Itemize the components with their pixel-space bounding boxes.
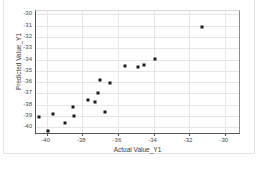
x-axis-tickmark — [225, 133, 226, 136]
data-point — [37, 116, 40, 119]
scatter-chart-card: -30-31-32-33-34-35-36-37-38-39-40 -40-38… — [3, 0, 255, 154]
x-axis-tickmark — [47, 133, 48, 136]
x-axis-tick-label: -30 — [219, 137, 228, 143]
x-axis-title: Actual Value_Y1 — [35, 146, 240, 153]
plot-area — [35, 10, 240, 134]
x-axis-tick-label: -32 — [184, 137, 193, 143]
y-axis-tick-label: -40 — [23, 123, 32, 129]
data-point — [108, 82, 111, 85]
data-point — [200, 26, 203, 29]
y-axis-tick-label: -30 — [23, 10, 32, 16]
data-point — [124, 64, 127, 67]
y-axis-tick-label: -34 — [23, 56, 32, 62]
x-axis-tick-label: -38 — [77, 137, 86, 143]
y-axis-title: Predicted Value_Y1 — [15, 12, 22, 112]
x-axis-tick-label: -36 — [113, 137, 122, 143]
data-point — [99, 78, 102, 81]
data-points-layer — [36, 11, 239, 133]
y-axis-tick-label: -37 — [23, 89, 32, 95]
y-axis-tick-label: -39 — [23, 112, 32, 118]
x-axis-tickmark — [82, 133, 83, 136]
x-axis-tick-label: -34 — [148, 137, 157, 143]
data-point — [97, 92, 100, 95]
y-axis-tick-label: -32 — [23, 33, 32, 39]
y-axis-tick-label: -31 — [23, 22, 32, 28]
x-axis-tickmark — [118, 133, 119, 136]
y-axis-tick-label: -38 — [23, 101, 32, 107]
x-axis-tick-label: -40 — [41, 137, 50, 143]
x-axis-tickmark — [154, 133, 155, 136]
data-point — [154, 58, 157, 61]
data-point — [73, 115, 76, 118]
data-point — [142, 63, 145, 66]
data-point — [103, 110, 106, 113]
data-point — [64, 121, 67, 124]
x-axis-tickmark — [189, 133, 190, 136]
data-point — [46, 129, 49, 132]
data-point — [137, 66, 140, 69]
data-point — [93, 100, 96, 103]
data-point — [86, 98, 89, 101]
y-axis-tick-label: -35 — [23, 67, 32, 73]
data-point — [51, 112, 54, 115]
y-axis-tick-label: -33 — [23, 44, 32, 50]
data-point — [71, 106, 74, 109]
y-axis-tick-label: -36 — [23, 78, 32, 84]
